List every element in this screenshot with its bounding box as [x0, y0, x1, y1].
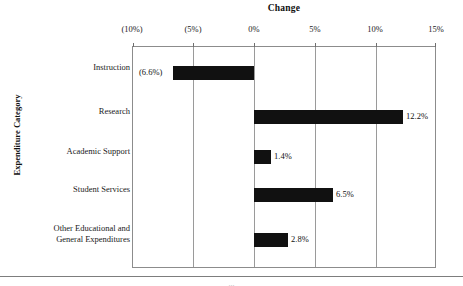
- bar-value-research: 12.2%: [406, 109, 428, 123]
- bar-value-instruction: (6.6%): [139, 65, 162, 79]
- clipped-caption: ...: [0, 279, 463, 286]
- bar-value-other-educational: 2.8%: [291, 232, 309, 246]
- category-label-academic-support: Academic Support: [4, 146, 130, 157]
- bar-row-research: 12.2%: [133, 95, 435, 139]
- axis-tick-zero: [254, 43, 255, 47]
- axis-tick-minus-5: [193, 43, 194, 47]
- axis-tick-15: [435, 43, 436, 47]
- category-label-instruction: Instruction: [4, 62, 130, 73]
- category-label-student-services: Student Services: [4, 184, 130, 195]
- bar-value-student-services: 6.5%: [336, 187, 354, 201]
- bar-instruction: [173, 66, 254, 80]
- bar-other-educational: [254, 233, 288, 247]
- x-tick-label-0: (10%): [121, 24, 142, 34]
- footer-divider: [0, 276, 463, 277]
- axis-tick-minus-10: [133, 43, 134, 47]
- bar-academic-support: [254, 150, 271, 164]
- category-label-other-educational: Other Educational and General Expenditur…: [4, 223, 130, 244]
- bar-research: [254, 110, 403, 124]
- category-label-other-educational-line1: Other Educational and: [4, 223, 130, 234]
- category-label-other-educational-line2: General Expenditures: [4, 234, 130, 245]
- axis-tick-10: [376, 43, 377, 47]
- y-axis-category-labels: Instruction Research Academic Support St…: [0, 46, 130, 268]
- bar-row-other-educational: 2.8%: [133, 218, 435, 262]
- x-tick-label-4: 10%: [367, 24, 383, 34]
- axis-tick-5: [315, 43, 316, 47]
- plot-area: (6.6%) 12.2% 1.4% 6.5% 2.8%: [132, 46, 436, 268]
- x-tick-label-3: 5%: [309, 24, 320, 34]
- bar-value-academic-support: 1.4%: [274, 149, 292, 163]
- bar-row-instruction: (6.6%): [133, 51, 435, 95]
- x-tick-label-2: 0%: [248, 24, 259, 34]
- x-tick-label-1: (5%): [185, 24, 202, 34]
- bar-student-services: [254, 188, 333, 202]
- chart-title: Change: [132, 3, 436, 13]
- chart-figure: Change (10%) (5%) 0% 5% 10% 15% Expendit…: [0, 0, 463, 286]
- x-axis-tick-labels: (10%) (5%) 0% 5% 10% 15%: [0, 24, 463, 38]
- category-label-research: Research: [4, 106, 130, 117]
- x-tick-label-5: 15%: [428, 24, 444, 34]
- bar-row-student-services: 6.5%: [133, 173, 435, 217]
